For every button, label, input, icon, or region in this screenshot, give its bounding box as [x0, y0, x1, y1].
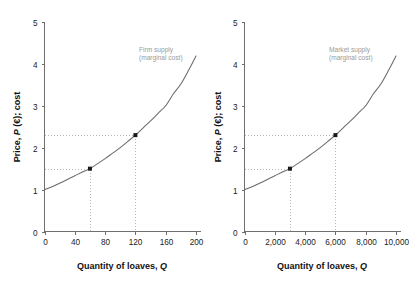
x-axis-tick-label: 160: [160, 238, 174, 247]
y-axis-title: Price, P (€); cost: [213, 92, 223, 163]
y-axis-group: 012345: [33, 19, 45, 238]
curve-annotation-line1: Firm supply: [139, 46, 174, 54]
y-axis-tick-label: 3: [33, 103, 38, 112]
y-axis-tick-label: 3: [233, 103, 238, 112]
supply-curve-line: [45, 56, 197, 190]
y-axis-tick-label: 0: [233, 229, 238, 238]
x-axis-title: Quantity of loaves, Q: [277, 261, 367, 271]
data-point-marker: [333, 133, 337, 137]
y-axis-tick-labels: 012345: [233, 19, 238, 238]
x-axis-tick-label: 0: [243, 238, 248, 247]
chart-panel-firm-supply: 012345 04080120160200 Firm supply (margi…: [0, 0, 210, 292]
market-supply-chart: 012345 02,0004,0006,0008,00010,000 Marke…: [210, 0, 420, 292]
x-axis-tick-labels: 04080120160200: [43, 238, 204, 247]
x-axis-tick-labels: 02,0004,0006,0008,00010,000: [243, 238, 409, 247]
y-axis-tick-label: 4: [33, 61, 38, 70]
y-axis-tick-label: 1: [233, 187, 238, 196]
y-axis-tick-label: 0: [33, 229, 38, 238]
x-axis-tick-label: 6,000: [325, 238, 346, 247]
x-axis-tick-label: 200: [190, 238, 204, 247]
x-axis-group: 04080120160200: [43, 232, 204, 247]
x-axis-tick-label: 10,000: [384, 238, 409, 247]
data-point-marker: [288, 167, 292, 171]
x-axis-title: Quantity of loaves, Q: [77, 261, 167, 271]
y-axis-tick-label: 5: [33, 19, 38, 28]
x-axis-tick-label: 80: [101, 238, 111, 247]
x-axis-group: 02,0004,0006,0008,00010,000: [243, 232, 409, 247]
firm-supply-chart: 012345 04080120160200 Firm supply (margi…: [0, 0, 210, 292]
y-axis-group: 012345: [233, 19, 245, 238]
x-axis-tick-label: 4,000: [295, 238, 316, 247]
y-axis-tick-label: 2: [233, 145, 238, 154]
x-axis-tick-label: 40: [71, 238, 81, 247]
data-point-marker: [88, 167, 92, 171]
y-axis-tick-label: 4: [233, 61, 238, 70]
y-axis-title: Price, P (€); cost: [12, 92, 22, 163]
data-point-marker: [133, 133, 137, 137]
y-axis-tick-label: 2: [33, 145, 38, 154]
x-axis-tick-label: 0: [43, 238, 48, 247]
curve-annotation-line1: Market supply: [329, 46, 371, 54]
supply-curves-figure: 012345 04080120160200 Firm supply (margi…: [0, 0, 420, 292]
y-axis-tick-label: 5: [233, 19, 238, 28]
supply-curve-line: [245, 56, 397, 190]
curve-annotation-line2: (marginal cost): [329, 54, 373, 62]
y-axis-tick-label: 1: [33, 187, 38, 196]
x-axis-tick-label: 2,000: [265, 238, 286, 247]
x-axis-tick-label: 8,000: [356, 238, 377, 247]
y-axis-tick-labels: 012345: [33, 19, 38, 238]
chart-panel-market-supply: 012345 02,0004,0006,0008,00010,000 Marke…: [210, 0, 420, 292]
x-axis-tick-label: 120: [129, 238, 143, 247]
curve-annotation-line2: (marginal cost): [139, 54, 183, 62]
